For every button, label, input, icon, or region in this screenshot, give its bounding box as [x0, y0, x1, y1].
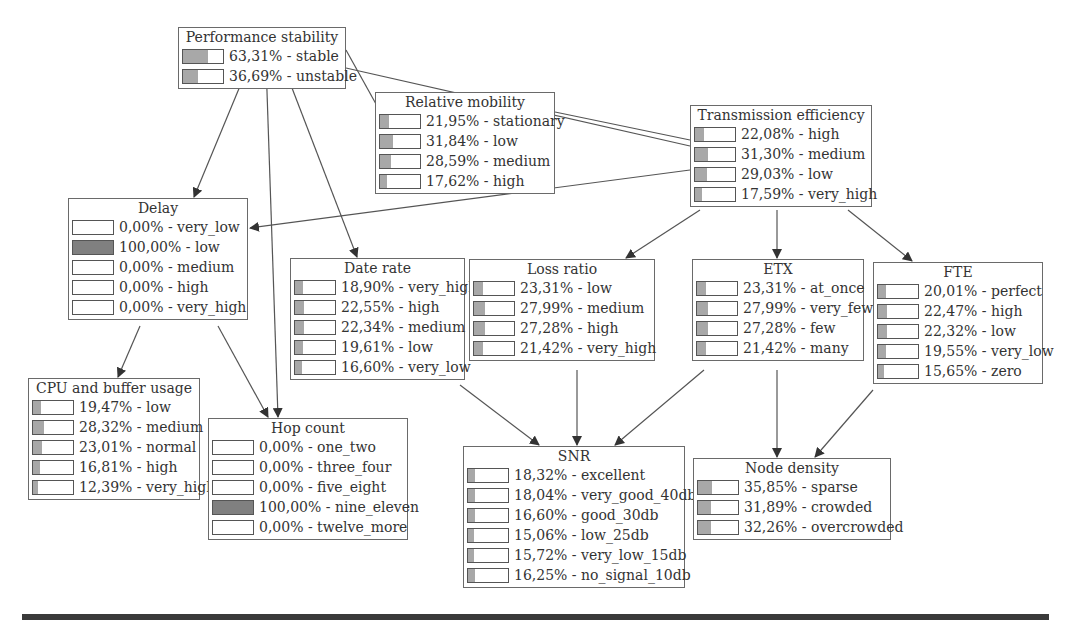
state-row[interactable]: 18,32% - excellent — [467, 465, 681, 485]
state-row[interactable]: 22,47% - high — [877, 301, 1039, 321]
state-label: 0,00% - medium — [119, 258, 234, 276]
state-row[interactable]: 16,25% - no_signal_10db — [467, 565, 681, 585]
state-row[interactable]: 19,47% - low — [32, 397, 196, 417]
probability-bar-fill — [697, 342, 706, 355]
state-row[interactable]: 22,34% - medium — [294, 317, 461, 337]
state-row[interactable]: 100,00% - low — [72, 237, 244, 257]
state-row[interactable]: 16,81% - high — [32, 457, 196, 477]
state-row[interactable]: 0,00% - one_two — [212, 437, 404, 457]
state-row[interactable]: 19,55% - very_low — [877, 341, 1039, 361]
probability-bar — [72, 300, 114, 315]
node-title: SNR — [467, 448, 681, 465]
edge-etx-to-snr — [615, 370, 704, 445]
state-label: 18,04% - very_good_40db — [514, 486, 696, 504]
probability-bar — [694, 167, 736, 182]
state-row[interactable]: 0,00% - five_eight — [212, 477, 404, 497]
state-label: 21,42% - many — [743, 339, 849, 357]
state-label: 31,30% - medium — [741, 145, 865, 163]
state-row[interactable]: 36,69% - unstable — [182, 66, 342, 86]
probability-bar — [473, 301, 515, 316]
state-row[interactable]: 27,99% - very_few — [696, 298, 860, 318]
state-row[interactable]: 21,95% - stationary — [379, 111, 551, 131]
node-title: Performance stability — [182, 29, 342, 46]
probability-bar-fill — [468, 569, 475, 582]
state-row[interactable]: 22,32% - low — [877, 321, 1039, 341]
node-cpu-buffer-usage[interactable]: CPU and buffer usage19,47% - low28,32% -… — [28, 378, 200, 500]
state-label: 27,28% - high — [520, 319, 619, 337]
node-date-rate[interactable]: Date rate18,90% - very_high22,55% - high… — [290, 258, 465, 380]
state-row[interactable]: 100,00% - nine_eleven — [212, 497, 404, 517]
node-loss-ratio[interactable]: Loss ratio23,31% - low27,99% - medium27,… — [469, 259, 655, 361]
state-row[interactable]: 22,08% - high — [694, 124, 868, 144]
state-row[interactable]: 31,84% - low — [379, 131, 551, 151]
node-fte[interactable]: FTE20,01% - perfect22,47% - high22,32% -… — [873, 262, 1043, 384]
state-label: 22,34% - medium — [341, 318, 465, 336]
state-row[interactable]: 35,85% - sparse — [697, 477, 887, 497]
state-label: 63,31% - stable — [229, 47, 339, 65]
state-row[interactable]: 27,99% - medium — [473, 298, 651, 318]
state-row[interactable]: 15,06% - low_25db — [467, 525, 681, 545]
state-row[interactable]: 22,55% - high — [294, 297, 461, 317]
state-row[interactable]: 29,03% - low — [694, 164, 868, 184]
state-row[interactable]: 0,00% - very_low — [72, 217, 244, 237]
state-row[interactable]: 27,28% - few — [696, 318, 860, 338]
state-label: 22,32% - low — [924, 322, 1016, 340]
node-node-density[interactable]: Node density35,85% - sparse31,89% - crow… — [693, 458, 891, 540]
state-row[interactable]: 21,42% - very_high — [473, 338, 651, 358]
node-transmission-efficiency[interactable]: Transmission efficiency22,08% - high31,3… — [690, 105, 872, 207]
edge-performance-stability-to-date-rate — [282, 62, 357, 257]
state-row[interactable]: 15,65% - zero — [877, 361, 1039, 381]
probability-bar — [72, 220, 114, 235]
state-label: 16,81% - high — [79, 458, 178, 476]
state-label: 16,60% - very_low — [341, 358, 471, 376]
probability-bar — [467, 488, 509, 503]
state-label: 100,00% - nine_eleven — [259, 498, 419, 516]
state-label: 23,31% - at_once — [743, 279, 865, 297]
node-hop-count[interactable]: Hop count0,00% - one_two0,00% - three_fo… — [208, 418, 408, 540]
state-row[interactable]: 19,61% - low — [294, 337, 461, 357]
probability-bar-fill — [695, 148, 708, 161]
state-row[interactable]: 28,32% - medium — [32, 417, 196, 437]
probability-bar — [697, 480, 739, 495]
probability-bar-fill — [295, 341, 303, 354]
probability-bar-fill — [474, 342, 483, 355]
state-row[interactable]: 20,01% - perfect — [877, 281, 1039, 301]
state-row[interactable]: 0,00% - twelve_more — [212, 517, 404, 537]
node-performance-stability[interactable]: Performance stability63,31% - stable36,6… — [178, 27, 346, 89]
state-row[interactable]: 28,59% - medium — [379, 151, 551, 171]
probability-bar-fill — [213, 501, 253, 514]
probability-bar — [467, 468, 509, 483]
state-row[interactable]: 16,60% - very_low — [294, 357, 461, 377]
probability-bar-fill — [474, 282, 483, 295]
state-row[interactable]: 0,00% - high — [72, 277, 244, 297]
state-row[interactable]: 16,60% - good_30db — [467, 505, 681, 525]
state-row[interactable]: 18,04% - very_good_40db — [467, 485, 681, 505]
state-label: 15,72% - very_low_15db — [514, 546, 686, 564]
state-row[interactable]: 12,39% - very_high — [32, 477, 196, 497]
state-row[interactable]: 0,00% - medium — [72, 257, 244, 277]
state-label: 28,32% - medium — [79, 418, 203, 436]
state-row[interactable]: 63,31% - stable — [182, 46, 342, 66]
state-row[interactable]: 15,72% - very_low_15db — [467, 545, 681, 565]
state-row[interactable]: 18,90% - very_high — [294, 277, 461, 297]
node-snr[interactable]: SNR18,32% - excellent18,04% - very_good_… — [463, 446, 685, 588]
edge-transmission-efficiency-to-loss-ratio — [626, 210, 700, 258]
state-row[interactable]: 32,26% - overcrowded — [697, 517, 887, 537]
state-row[interactable]: 0,00% - three_four — [212, 457, 404, 477]
node-relative-mobility[interactable]: Relative mobility21,95% - stationary31,8… — [375, 92, 555, 194]
state-row[interactable]: 17,62% - high — [379, 171, 551, 191]
state-row[interactable]: 31,89% - crowded — [697, 497, 887, 517]
node-title: Date rate — [294, 260, 461, 277]
state-row[interactable]: 23,01% - normal — [32, 437, 196, 457]
node-delay[interactable]: Delay0,00% - very_low100,00% - low0,00% … — [68, 198, 248, 320]
probability-bar-fill — [380, 115, 389, 128]
node-title: Hop count — [212, 420, 404, 437]
state-row[interactable]: 31,30% - medium — [694, 144, 868, 164]
state-row[interactable]: 27,28% - high — [473, 318, 651, 338]
state-row[interactable]: 23,31% - at_once — [696, 278, 860, 298]
state-row[interactable]: 23,31% - low — [473, 278, 651, 298]
node-etx[interactable]: ETX23,31% - at_once27,99% - very_few27,2… — [692, 259, 864, 361]
state-row[interactable]: 21,42% - many — [696, 338, 860, 358]
state-row[interactable]: 17,59% - very_high — [694, 184, 868, 204]
state-row[interactable]: 0,00% - very_high — [72, 297, 244, 317]
